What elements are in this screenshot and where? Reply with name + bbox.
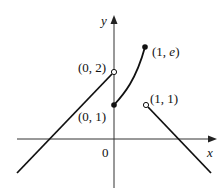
x-axis-label: x bbox=[206, 145, 213, 160]
label-1-e-prefix: (1, bbox=[152, 44, 169, 59]
label-1-e: (1, e) bbox=[152, 44, 179, 59]
open-point-1-1 bbox=[143, 102, 148, 107]
label-1-1: (1, 1) bbox=[150, 91, 178, 106]
open-point-0-2 bbox=[111, 69, 116, 74]
y-axis-arrow-icon bbox=[111, 15, 118, 24]
label-1-e-suffix: ) bbox=[175, 44, 179, 59]
label-0-1: (0, 1) bbox=[78, 109, 106, 124]
filled-point-0-1 bbox=[111, 102, 117, 108]
right-linear-segment bbox=[148, 107, 211, 173]
y-axis-label: y bbox=[99, 13, 107, 28]
piecewise-function-graph: y x 0 (0, 2) (0, 1) (1, e) (1, 1) bbox=[0, 0, 220, 188]
origin-label: 0 bbox=[102, 145, 109, 160]
label-0-2: (0, 2) bbox=[78, 60, 106, 75]
x-axis-arrow-icon bbox=[208, 136, 217, 143]
exponential-curve bbox=[114, 47, 145, 105]
filled-point-1-e bbox=[142, 44, 148, 50]
